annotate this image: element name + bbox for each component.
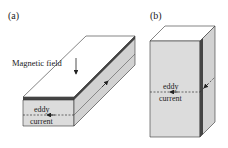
slab-a-front-band bbox=[23, 97, 74, 100]
panel-a: (a) eddy current Magnetic field bbox=[8, 10, 135, 126]
panel-a-label: (a) bbox=[8, 10, 19, 22]
eddy-label-b: eddy bbox=[163, 82, 179, 91]
magnetic-field-label: Magnetic field bbox=[12, 58, 63, 68]
eddy-current-figure: (a) eddy current Magnetic field (b) bbox=[0, 0, 228, 148]
eddy-label-a: eddy bbox=[34, 105, 50, 114]
panel-b-label: (b) bbox=[150, 10, 162, 22]
current-label-a: current bbox=[30, 117, 53, 126]
diagram-canvas: (a) eddy current Magnetic field (b) bbox=[0, 0, 228, 148]
current-label-b: current bbox=[159, 94, 182, 103]
panel-b: (b) eddy current bbox=[150, 10, 215, 137]
block-b-dark-band bbox=[200, 38, 203, 137]
